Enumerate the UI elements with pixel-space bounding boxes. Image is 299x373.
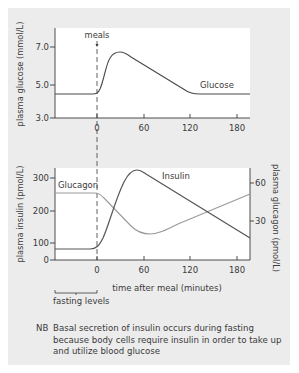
glucose-plot-area — [55, 28, 250, 118]
insulin-ytick-300: 300 — [33, 173, 49, 183]
glucagon-ytick-30: 30 — [255, 216, 266, 226]
hormone-xtick-60: 60 — [139, 265, 150, 275]
insulin-ytick-0: 0 — [44, 255, 49, 265]
hormone-xtick-120: 120 — [182, 265, 198, 275]
fasting-label: fasting levels — [53, 296, 110, 306]
glucose-xtick-120: 120 — [182, 123, 198, 133]
glucose-ylabel: plasma glucose (mmol/L) — [15, 22, 25, 127]
footnote-prefix: NB — [36, 323, 48, 335]
insulin-ytick-200: 200 — [33, 206, 49, 216]
fasting-bracket — [55, 290, 97, 295]
glucagon-series-label: Glucagon — [58, 180, 98, 190]
footnote-text: Basal secretion of insulin occurs during… — [53, 323, 283, 358]
x-axis-label: time after meal (minutes) — [112, 283, 222, 293]
glucose-ytick-3: 3.0 — [35, 113, 49, 123]
insulin-series-label: Insulin — [162, 171, 190, 181]
glucose-ytick-7: 7.0 — [35, 42, 49, 52]
glucagon-ytick-60: 60 — [255, 178, 266, 188]
insulin-ytick-100: 100 — [33, 238, 49, 248]
hormone-xtick-180: 180 — [229, 265, 245, 275]
glucose-series-label: Glucose — [200, 80, 234, 90]
glucose-xtick-180: 180 — [229, 123, 245, 133]
hormone-xtick-0: 0 — [94, 265, 99, 275]
glucose-xtick-60: 60 — [139, 123, 150, 133]
glucagon-ylabel: plasma glucagon (pmol/L) — [271, 164, 281, 272]
glucose-ytick-5: 5.0 — [35, 80, 49, 90]
insulin-ylabel: plasma insulin (pmol/L) — [15, 165, 25, 262]
meals-label: meals — [85, 30, 110, 40]
chart-canvas: 7.0 5.0 3.0 0 60 120 180 plasma glucose … — [0, 0, 299, 373]
